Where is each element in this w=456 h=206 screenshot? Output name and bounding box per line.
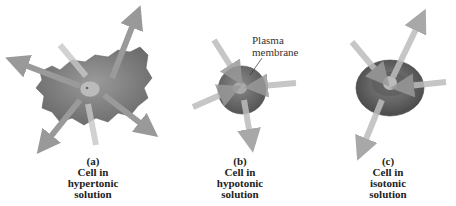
caption-a-line3: solution: [38, 189, 148, 200]
osmosis-figure: Plasma membrane (a) Cell in hypertonic s…: [0, 0, 456, 206]
caption-b: (b) Cell in hypotonic solution: [185, 156, 295, 200]
hypertonic-cell: [36, 47, 152, 125]
annotation-line1: Plasma: [252, 34, 298, 46]
caption-c-line3: solution: [333, 189, 443, 200]
annotation-line2: membrane: [252, 46, 298, 58]
caption-c: (c) Cell in isotonic solution: [333, 156, 443, 200]
plasma-membrane-label: Plasma membrane: [252, 34, 298, 58]
caption-a: (a) Cell in hypertonic solution: [38, 156, 148, 200]
caption-b-line3: solution: [185, 189, 295, 200]
